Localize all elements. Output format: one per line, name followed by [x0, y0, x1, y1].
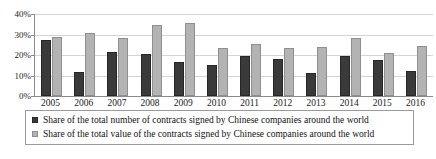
- bar-group: [101, 14, 134, 96]
- y-axis-tick-label: 30%: [15, 30, 32, 39]
- x-axis-tick-label: 2016: [399, 97, 432, 109]
- bar-group: [201, 14, 234, 96]
- bar-group: [367, 14, 400, 96]
- bar-group: [135, 14, 168, 96]
- y-axis-tick-label: 10%: [15, 71, 32, 80]
- x-axis: 2005200620072008200920102011201220132014…: [34, 97, 432, 109]
- bar-group: [300, 14, 333, 96]
- bar-group: [334, 14, 367, 96]
- bar-series-a: [273, 59, 283, 96]
- bar-series-b: [185, 23, 195, 96]
- bar-series-b: [284, 48, 294, 96]
- x-axis-tick-label: 2014: [333, 97, 366, 109]
- x-axis-tick-label: 2006: [67, 97, 100, 109]
- bar-series-a: [141, 54, 151, 96]
- bar-series-a: [240, 56, 250, 96]
- bar-series-b: [52, 37, 62, 96]
- bar-chart: 40% 30% 20% 10% 0% 200520062007200820092…: [0, 0, 436, 159]
- bars-layer: [35, 14, 433, 96]
- bar-series-b: [384, 53, 394, 96]
- plot-wrapper: 40% 30% 20% 10% 0% 200520062007200820092…: [0, 0, 436, 107]
- x-axis-tick-label: 2013: [299, 97, 332, 109]
- chart-legend: Share of the total number of contracts s…: [25, 110, 414, 145]
- bar-series-a: [207, 65, 217, 96]
- bar-series-b: [417, 46, 427, 96]
- x-axis-tick-label: 2008: [134, 97, 167, 109]
- bar-series-b: [251, 44, 261, 96]
- bar-group: [168, 14, 201, 96]
- y-axis: 40% 30% 20% 10% 0%: [0, 0, 34, 107]
- bar-group: [267, 14, 300, 96]
- bar-group: [400, 14, 433, 96]
- bar-series-a: [41, 40, 51, 96]
- x-axis-tick-label: 2015: [366, 97, 399, 109]
- legend-item-series-a[interactable]: Share of the total number of contracts s…: [30, 113, 409, 127]
- bar-series-a: [74, 72, 84, 96]
- bar-series-a: [340, 56, 350, 96]
- x-axis-tick-label: 2007: [100, 97, 133, 109]
- bar-series-b: [85, 33, 95, 96]
- x-axis-tick-label: 2012: [266, 97, 299, 109]
- x-axis-tick-label: 2009: [167, 97, 200, 109]
- bar-group: [234, 14, 267, 96]
- y-axis-tick-label: 40%: [15, 10, 32, 19]
- bar-series-b: [152, 25, 162, 96]
- legend-label-series-b: Share of the total value of the contract…: [43, 129, 374, 140]
- x-axis-tick-label: 2011: [233, 97, 266, 109]
- x-axis-tick-label: 2005: [34, 97, 67, 109]
- bar-group: [35, 14, 68, 96]
- legend-swatch-light-icon: [32, 131, 38, 137]
- legend-label-series-a: Share of the total number of contracts s…: [43, 115, 369, 126]
- bar-series-a: [373, 60, 383, 96]
- y-axis-tick-label: 20%: [15, 51, 32, 60]
- bar-series-a: [174, 62, 184, 96]
- plot-area: [34, 14, 433, 97]
- bar-series-b: [351, 38, 361, 96]
- bar-series-b: [317, 47, 327, 96]
- bar-series-a: [306, 73, 316, 96]
- bar-group: [68, 14, 101, 96]
- legend-item-series-b[interactable]: Share of the total value of the contract…: [30, 127, 409, 141]
- legend-swatch-dark-icon: [32, 117, 38, 123]
- y-axis-tick-label: 0%: [19, 92, 31, 101]
- bar-series-a: [406, 71, 416, 96]
- bar-series-a: [107, 52, 117, 96]
- x-axis-tick-label: 2010: [200, 97, 233, 109]
- bar-series-b: [218, 48, 228, 96]
- bar-series-b: [118, 38, 128, 96]
